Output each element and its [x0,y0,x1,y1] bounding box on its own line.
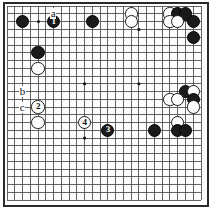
point-label-b: b [19,86,26,97]
stone-black [86,15,99,28]
numbered-stone-black: 3 [101,124,114,137]
stone-black [187,31,200,44]
go-board-figure: 1243abc [0,0,215,213]
stone-white [125,15,138,28]
stone-black [16,15,29,28]
point-label-c: c [19,102,25,113]
point-label-a: a [50,8,56,19]
stone-black [148,124,161,137]
stone-white [171,15,184,28]
stone-white [31,116,44,129]
stone-move-number: 3 [106,125,110,134]
numbered-stone-white: 2 [31,100,44,113]
stone-black [31,46,44,59]
stone-move-number: 2 [36,102,40,111]
stone-black [187,15,200,28]
stone-move-number: 4 [82,118,86,127]
numbered-stone-white: 4 [78,116,91,129]
stone-white [31,62,44,75]
stone-white [171,93,184,106]
stone-black [179,124,192,137]
board-marker-dot [37,20,40,23]
stone-layer: 1243abc [0,0,215,213]
stone-white [187,100,200,113]
